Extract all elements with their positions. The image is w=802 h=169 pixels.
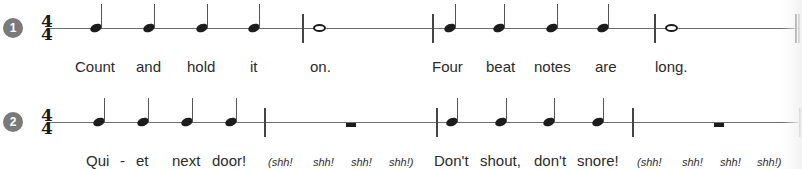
lyric-shh: (shh! xyxy=(268,156,292,168)
note-stem xyxy=(603,98,604,122)
double-barline-thin xyxy=(798,14,800,43)
lyric-word: snore! xyxy=(577,152,619,169)
lyric-word: notes xyxy=(534,58,571,75)
lyric-word: et xyxy=(136,152,149,169)
whole-note xyxy=(313,24,326,32)
lyric-word: and xyxy=(136,58,161,75)
time-signature-bottom: 4 xyxy=(40,122,54,135)
note-stem xyxy=(236,98,237,122)
staff-line xyxy=(50,28,800,29)
note-stem xyxy=(557,4,558,28)
barline xyxy=(654,14,656,43)
half-rest xyxy=(346,123,356,127)
exercise-number-badge: 2 xyxy=(3,112,23,132)
lyric-shh: shh! xyxy=(720,156,741,168)
half-rest xyxy=(714,123,724,127)
lyric-word: on. xyxy=(310,58,331,75)
note-stem xyxy=(504,4,505,28)
note-stem xyxy=(104,98,105,122)
whole-note xyxy=(665,24,678,32)
time-signature-bottom: 4 xyxy=(40,28,54,41)
note-stem xyxy=(207,4,208,28)
note-stem xyxy=(148,98,149,122)
note-stem xyxy=(608,4,609,28)
lyric-word: long. xyxy=(655,58,688,75)
lyric-shh: shh! xyxy=(351,156,372,168)
barline xyxy=(632,108,634,137)
lyric-word: next xyxy=(172,152,200,169)
lyric-word: door! xyxy=(212,152,246,169)
note-stem xyxy=(554,98,555,122)
barline xyxy=(432,14,434,43)
note-stem xyxy=(259,4,260,28)
exercise-number-badge: 1 xyxy=(3,18,23,38)
lyric-word: shout, xyxy=(480,152,521,169)
lyric-shh: shh!) xyxy=(389,156,413,168)
lyric-word: are xyxy=(595,58,617,75)
lyric-word: beat xyxy=(486,58,515,75)
lyric-shh: (shh! xyxy=(637,156,661,168)
barline xyxy=(264,108,266,137)
lyric-hyphen: - xyxy=(120,152,125,169)
exercise-1: 1 4 4 Count and hold it on. Four beat no… xyxy=(0,0,802,84)
lyric-word: Qui xyxy=(86,152,109,169)
lyric-word: it xyxy=(250,58,258,75)
barline xyxy=(436,108,438,137)
lyric-word: don't xyxy=(534,152,566,169)
note-stem xyxy=(154,4,155,28)
exercise-2: 2 4 4 Qui - et next door! (shh! shh! shh… xyxy=(0,94,802,169)
end-barline xyxy=(799,108,801,137)
lyric-word: Don't xyxy=(434,152,469,169)
lyric-shh: shh! xyxy=(682,156,703,168)
lyric-word: Four xyxy=(432,58,463,75)
lyric-word: Count xyxy=(75,58,115,75)
note-stem xyxy=(101,4,102,28)
lyric-shh: shh! xyxy=(313,156,334,168)
lyric-word: hold xyxy=(187,58,215,75)
note-stem xyxy=(457,98,458,122)
double-barline-thin xyxy=(795,14,797,43)
note-stem xyxy=(192,98,193,122)
note-stem xyxy=(455,4,456,28)
staff-line xyxy=(50,122,802,123)
lyric-shh: shh!) xyxy=(757,156,781,168)
note-stem xyxy=(506,98,507,122)
barline xyxy=(302,14,304,43)
